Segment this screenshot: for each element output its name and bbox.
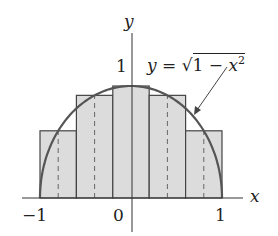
approx-rectangle: [113, 86, 149, 198]
eq-lhs: y: [147, 55, 157, 75]
y-axis-label: y: [124, 13, 134, 30]
x-tick-one: 1: [215, 207, 226, 224]
x-tick-neg-one: −1: [22, 207, 47, 224]
sqrt-icon: √: [182, 55, 193, 75]
radicand-var: x: [228, 55, 238, 75]
approx-rectangle: [76, 95, 112, 198]
y-tick-one: 1: [116, 58, 127, 75]
radicand-exp: 2: [238, 54, 245, 67]
approx-rectangle: [149, 95, 185, 198]
midpoint-rule-diagram: y x 1 −1 0 1 y = √1 − x2: [0, 0, 278, 236]
arrow-head-icon: [194, 106, 201, 115]
diagram-canvas: [0, 0, 278, 236]
x-tick-zero: 0: [113, 207, 124, 224]
radicand-const: 1 −: [193, 55, 229, 75]
radicand: 1 − x2: [193, 53, 245, 75]
x-axis-label: x: [250, 188, 260, 205]
rectangles: [40, 86, 222, 198]
curve-equation-label: y = √1 − x2: [147, 55, 245, 74]
eq-equals: =: [162, 55, 176, 75]
